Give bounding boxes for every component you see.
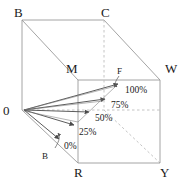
percent-label-50: 50% <box>95 114 112 124</box>
fan-guide-b <box>24 101 103 110</box>
vertex-label-O-origin: 0 <box>3 104 10 117</box>
callout-leader-b <box>55 133 59 148</box>
vertex-label-C-cyan: C <box>101 6 110 19</box>
callout-label-b: B <box>42 152 48 161</box>
callout-leader-F <box>115 76 119 87</box>
edge-C-W <box>104 20 160 80</box>
vertex-label-M-magenta: M <box>66 62 78 75</box>
fan-guide-a <box>24 86 116 110</box>
vertex-label-B-blue: B <box>14 6 23 19</box>
callout-label-F: F <box>117 67 122 76</box>
percent-label-75: 75% <box>111 101 128 111</box>
vertex-label-R-red: R <box>74 166 83 179</box>
cube-top-face <box>22 20 160 110</box>
percent-label-25: 25% <box>79 128 96 138</box>
vertex-label-Y-yellow: Y <box>160 166 169 179</box>
cube-linework <box>0 0 183 187</box>
rgb-cube-diagram: B C M W 0 R Y F B 100% 75% 50% 25% 0% <box>0 0 183 187</box>
vertex-label-W-white: W <box>165 62 177 75</box>
percent-label-0: 0% <box>64 142 77 152</box>
percent-label-100: 100% <box>125 86 147 96</box>
